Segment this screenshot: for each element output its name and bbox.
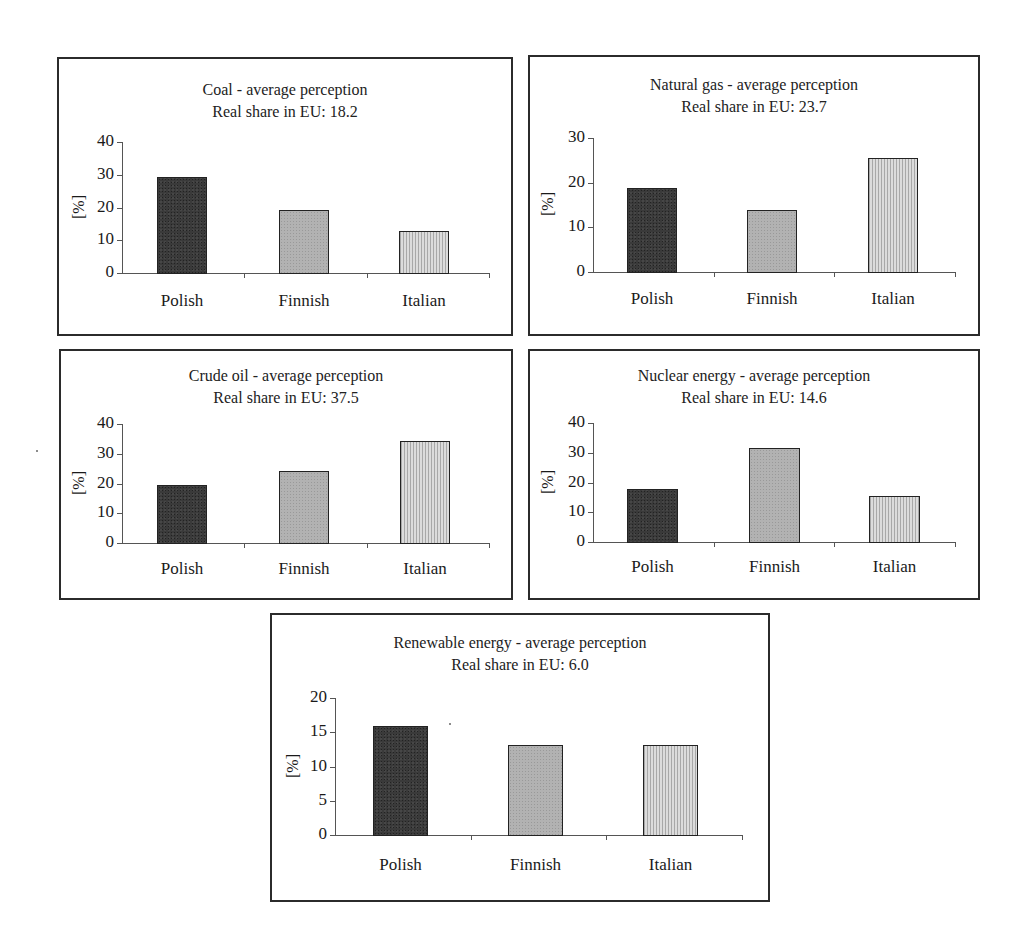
y-tick-label: 0 xyxy=(545,262,585,280)
stray-dot xyxy=(36,450,38,452)
y-tick-label: 0 xyxy=(545,532,585,550)
x-tick-label: Finnish xyxy=(254,559,354,579)
y-tick xyxy=(117,513,122,514)
x-tick xyxy=(714,542,715,547)
y-tick xyxy=(330,698,335,699)
bar-polish xyxy=(157,177,207,274)
bar-finnish xyxy=(279,471,329,544)
chart-title: Natural gas - average perception xyxy=(530,74,978,96)
y-tick xyxy=(117,142,122,143)
y-tick-label: 0 xyxy=(287,825,327,843)
chart-panel-natural-gas: Natural gas - average perceptionReal sha… xyxy=(528,55,980,336)
x-tick xyxy=(471,835,472,840)
y-tick xyxy=(588,483,593,484)
x-tick-label: Italian xyxy=(845,557,945,577)
y-tick-label: 5 xyxy=(287,791,327,809)
y-tick xyxy=(588,512,593,513)
chart-panel-crude-oil: Crude oil - average perceptionReal share… xyxy=(59,349,513,600)
y-tick xyxy=(588,423,593,424)
y-axis-label: [%] xyxy=(539,467,557,497)
y-tick-label: 30 xyxy=(545,443,585,461)
x-tick xyxy=(606,835,607,840)
x-tick xyxy=(244,543,245,548)
y-tick-label: 10 xyxy=(545,217,585,235)
bar-italian xyxy=(643,745,698,836)
y-tick xyxy=(117,454,122,455)
y-tick-label: 20 xyxy=(287,688,327,706)
y-axis xyxy=(593,138,594,272)
y-tick-label: 10 xyxy=(74,503,114,521)
y-axis-label: [%] xyxy=(70,468,88,498)
y-axis xyxy=(122,142,123,273)
x-tick-label: Italian xyxy=(843,289,943,309)
chart-subtitle: Real share in EU: 18.2 xyxy=(59,101,511,123)
y-tick-label: 30 xyxy=(74,165,114,183)
y-tick-label: 0 xyxy=(74,533,114,551)
x-tick-label: Polish xyxy=(603,557,703,577)
chart-subtitle: Real share in EU: 14.6 xyxy=(530,387,978,409)
chart-panel-nuclear: Nuclear energy - average perceptionReal … xyxy=(528,349,980,600)
x-tick xyxy=(244,273,245,278)
chart-panel-coal: Coal - average perceptionReal share in E… xyxy=(57,57,513,336)
x-tick xyxy=(742,835,743,840)
y-tick xyxy=(330,767,335,768)
x-tick xyxy=(955,542,956,547)
x-tick-label: Polish xyxy=(132,291,232,311)
y-tick-label: 10 xyxy=(74,230,114,248)
y-axis xyxy=(335,698,336,835)
chart-panel-renewable: Renewable energy - average perceptionRea… xyxy=(270,613,770,902)
x-tick xyxy=(489,273,490,278)
y-tick xyxy=(330,801,335,802)
chart-subtitle: Real share in EU: 23.7 xyxy=(530,96,978,118)
y-tick-label: 30 xyxy=(545,128,585,146)
y-tick-label: 30 xyxy=(74,444,114,462)
x-tick-label: Finnish xyxy=(486,855,586,875)
bar-finnish xyxy=(747,210,797,273)
y-tick xyxy=(117,240,122,241)
y-tick-label: 0 xyxy=(74,263,114,281)
x-tick xyxy=(834,542,835,547)
y-tick-label: 40 xyxy=(545,413,585,431)
x-tick-label: Polish xyxy=(602,289,702,309)
x-tick xyxy=(489,543,490,548)
bar-italian xyxy=(868,158,918,273)
y-axis-label: [%] xyxy=(284,751,302,781)
y-tick xyxy=(588,183,593,184)
y-tick xyxy=(117,273,122,274)
bar-italian xyxy=(869,496,920,543)
x-tick-label: Finnish xyxy=(722,289,822,309)
x-tick-label: Italian xyxy=(375,559,475,579)
x-tick xyxy=(955,272,956,277)
x-tick xyxy=(367,543,368,548)
bar-finnish xyxy=(279,210,329,274)
bar-polish xyxy=(627,188,677,273)
y-tick xyxy=(330,835,335,836)
y-tick-label: 10 xyxy=(545,502,585,520)
bar-italian xyxy=(399,231,449,274)
x-tick xyxy=(834,272,835,277)
y-tick xyxy=(588,227,593,228)
bar-polish xyxy=(373,726,428,836)
x-tick-label: Italian xyxy=(621,855,721,875)
y-tick xyxy=(588,542,593,543)
stray-dot xyxy=(449,723,451,725)
y-tick xyxy=(588,272,593,273)
chart-title: Nuclear energy - average perception xyxy=(530,365,978,387)
bar-polish xyxy=(157,485,207,544)
x-tick-label: Polish xyxy=(132,559,232,579)
y-tick-label: 40 xyxy=(74,414,114,432)
chart-title: Crude oil - average perception xyxy=(61,365,511,387)
y-tick xyxy=(330,732,335,733)
chart-title: Coal - average perception xyxy=(59,79,511,101)
bar-finnish xyxy=(508,745,563,836)
y-tick-label: 15 xyxy=(287,722,327,740)
y-tick xyxy=(117,424,122,425)
y-tick-label: 20 xyxy=(545,173,585,191)
x-tick-label: Finnish xyxy=(254,291,354,311)
y-axis xyxy=(593,423,594,542)
y-axis-label: [%] xyxy=(539,189,557,219)
bar-polish xyxy=(627,489,678,543)
y-tick xyxy=(117,208,122,209)
bar-italian xyxy=(400,441,450,544)
x-tick xyxy=(714,272,715,277)
